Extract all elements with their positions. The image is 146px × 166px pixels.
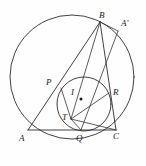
segment-t-r [71, 93, 109, 119]
segment-bc [100, 22, 116, 130]
label-point-aprime: A' [121, 19, 128, 28]
label-point-q: Q [76, 134, 83, 143]
segment-aprime-q [81, 31, 118, 130]
incenter-dot [80, 98, 83, 101]
segment-b-aprime [100, 22, 118, 31]
segment-t-c [71, 119, 116, 130]
label-point-a: A [19, 134, 25, 143]
label-point-t: T [62, 113, 67, 122]
label-point-r: R [113, 88, 119, 97]
label-point-p: P [46, 78, 52, 87]
segment-t-b [71, 22, 100, 119]
geometry-figure: B A' P I R T A Q C [0, 0, 146, 166]
label-point-i: I [71, 88, 74, 97]
label-point-b: B [99, 11, 105, 20]
label-point-c: C [113, 132, 119, 141]
